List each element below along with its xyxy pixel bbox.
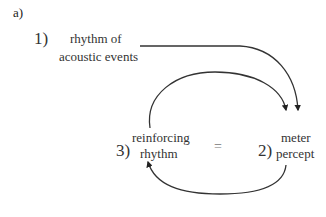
diagram-arrows (0, 0, 326, 217)
arrow-2-to-3 (148, 162, 286, 194)
arrow-1-to-2 (140, 46, 298, 110)
arrow-3-to-2 (149, 72, 286, 128)
